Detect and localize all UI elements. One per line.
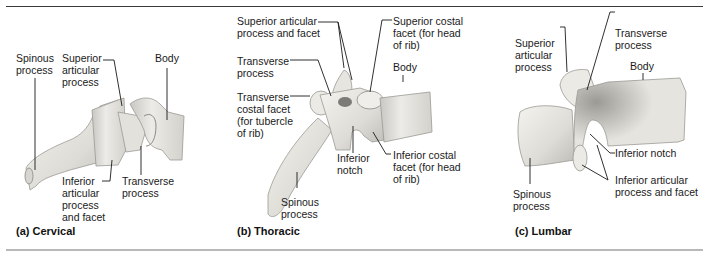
label-inferior-notch: Inferior notch (337, 152, 370, 176)
caption-cervical: (a) Cervical (16, 225, 75, 237)
caption-lumbar: (c) Lumbar (515, 225, 572, 237)
label-inferior-costal-facet: Inferior costal facet (for head of rib) (393, 149, 461, 185)
label-body: Body (155, 52, 179, 64)
label-transverse-process: Transverse process (237, 55, 289, 79)
label-spinous-process: Spinous process (513, 188, 551, 212)
label-spinous-process: Spinous process (16, 52, 54, 76)
label-transverse-process: Transverse process (615, 27, 667, 51)
vertebrae-illustrations (0, 0, 709, 265)
bottom-rule (6, 249, 703, 251)
label-transverse-costal-facet: Transverse costal facet (for tubercle of… (237, 91, 293, 139)
label-superior-costal-facet: Superior costal facet (for head of rib) (393, 15, 463, 51)
label-inferior-notch: Inferior notch (615, 147, 676, 159)
label-superior-articular-process-facet: Superior articular process and facet (237, 15, 320, 39)
label-superior-articular-process: Superior articular process (62, 52, 102, 88)
label-superior-articular-process: Superior articular process (515, 37, 555, 73)
label-transverse-process: Transverse process (122, 175, 174, 199)
caption-thoracic: (b) Thoracic (237, 225, 300, 237)
label-body: Body (393, 61, 417, 73)
label-inferior-articular-process-facet: Inferior articular process and facet (615, 174, 698, 198)
label-body: Body (630, 60, 654, 72)
label-spinous-process: Spinous process (281, 196, 319, 220)
label-inferior-articular-process-facet: Inferior articular process and facet (62, 175, 105, 223)
